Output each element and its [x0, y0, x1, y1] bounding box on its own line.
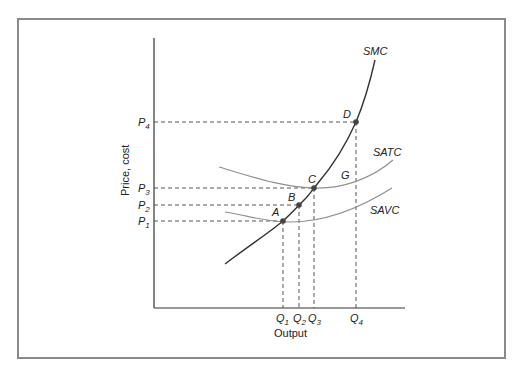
point-c	[311, 185, 317, 191]
tick-p4: P4	[138, 116, 150, 131]
y-axis-title: Price, cost	[119, 145, 131, 196]
savc-curve	[225, 188, 392, 222]
tick-p2: P2	[138, 199, 150, 214]
label-smc: SMC	[363, 45, 388, 57]
smc-curve	[225, 60, 375, 264]
guide-lines	[154, 122, 356, 308]
satc-curve	[219, 160, 393, 188]
point-d	[353, 119, 359, 125]
tick-q2: Q2	[293, 312, 307, 327]
label-a: A	[271, 206, 279, 218]
label-satc: SATC	[373, 146, 402, 158]
tick-q1: Q1	[276, 312, 289, 327]
tick-q4: Q4	[350, 312, 364, 327]
label-g: G	[341, 169, 350, 181]
label-b: B	[288, 191, 295, 203]
tick-q3: Q3	[308, 312, 322, 327]
label-savc: SAVC	[370, 204, 399, 216]
y-tick-labels: P4 P3 P2 P1	[138, 116, 150, 230]
x-axis-title: Output	[274, 327, 307, 339]
label-d: D	[343, 108, 351, 120]
label-c: C	[308, 173, 316, 185]
cost-curves-diagram: SMC SATC SAVC A B C D G P4 P3 P2 P1 Q1 Q…	[0, 0, 526, 373]
x-tick-labels: Q1 Q2 Q3 Q4	[276, 312, 364, 327]
point-a	[280, 218, 286, 224]
tick-p1: P1	[138, 215, 150, 230]
tick-p3: P3	[138, 182, 150, 197]
point-b	[296, 202, 302, 208]
